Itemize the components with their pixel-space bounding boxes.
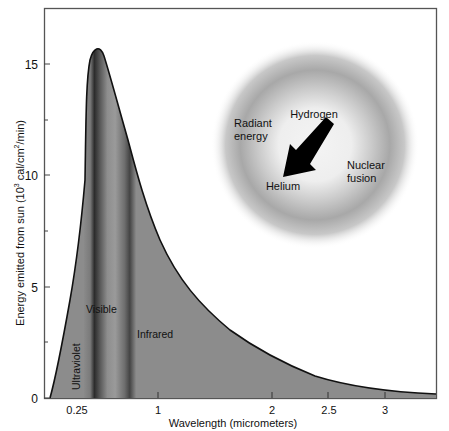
x-tick-label: 2.5 bbox=[321, 404, 336, 416]
x-tick-label: 1 bbox=[155, 404, 161, 416]
sun-inset bbox=[211, 41, 419, 249]
inset-label-radiant: Radiant bbox=[234, 117, 272, 129]
inset-label-nuclear: Nuclear bbox=[347, 159, 385, 171]
inset-label-helium: Helium bbox=[266, 180, 300, 192]
y-tick-label: 10 bbox=[25, 169, 39, 183]
y-tick-label: 0 bbox=[31, 392, 38, 406]
region-label-ultraviolet: Ultraviolet bbox=[70, 343, 82, 390]
y-axis-title: Energy emitted from sun (103 cal/cm2/min… bbox=[13, 120, 26, 326]
x-axis-title: Wavelength (micrometers) bbox=[169, 417, 298, 429]
y-tick-label: 5 bbox=[31, 281, 38, 295]
solar-spectrum-chart: 0 5 10 15 0.25 1 2 2.5 3 Wavelength (mic… bbox=[0, 0, 449, 431]
x-tick-label: 3 bbox=[382, 404, 388, 416]
x-tick-label: 2 bbox=[269, 404, 275, 416]
inset-label-energy: energy bbox=[234, 130, 268, 142]
y-tick-label: 15 bbox=[25, 58, 39, 72]
x-tick-label: 0.25 bbox=[66, 404, 87, 416]
region-label-visible: Visible bbox=[86, 303, 117, 315]
region-label-infrared: Infrared bbox=[137, 328, 173, 340]
inset-label-hydrogen: Hydrogen bbox=[290, 108, 338, 120]
inset-label-fusion: fusion bbox=[347, 172, 376, 184]
